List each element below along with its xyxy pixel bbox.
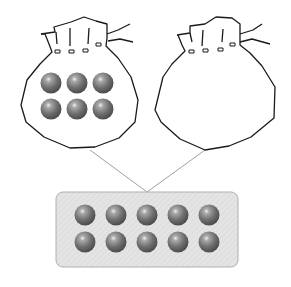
connector-right xyxy=(147,150,205,192)
right-bag xyxy=(155,17,275,150)
left-bag-balls xyxy=(41,73,114,120)
connector-left xyxy=(90,150,147,192)
ball-box xyxy=(56,192,238,267)
bags-and-box-diagram xyxy=(0,0,291,287)
